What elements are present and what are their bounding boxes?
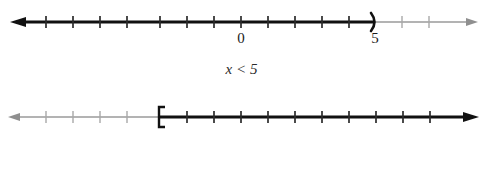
left-arrowhead-thin-icon [8,113,20,121]
axis-label-zero: 0 [221,31,261,46]
right-arrowhead-bold-icon [463,112,479,122]
inequality-figure-x-greater-equal-neg3: –3 0 x ≥ –3 [0,95,483,191]
axis-label-five: 5 [355,31,395,46]
unshaded-region-2 [8,111,161,123]
right-arrowhead-thin-icon [466,18,478,26]
unshaded-region-1 [374,16,478,28]
inequality-figure-x-less-than-5: 0 5 x < 5 [0,0,483,95]
number-line-2-graphic [0,95,483,145]
shaded-region-1 [10,16,375,28]
shaded-region-2 [160,111,479,123]
left-arrowhead-bold-icon [10,17,26,27]
inequality-caption-1: x < 5 [0,62,483,77]
